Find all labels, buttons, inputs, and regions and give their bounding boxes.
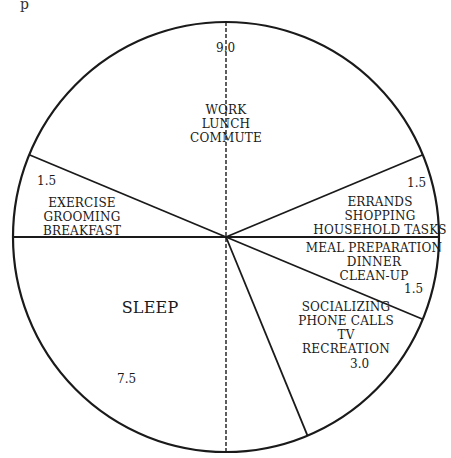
slice-value-socializing: 3.0 [350,357,369,371]
slice-value-sleep: 7.5 [117,372,136,386]
slice-label-socializing: SOCIALIZING PHONE CALLS TV RECREATION [286,300,406,356]
slice-value-exercise: 1.5 [37,174,56,188]
slice-value-errands: 1.5 [407,176,426,190]
slice-label-meal: MEAL PREPARATION DINNER CLEAN-UP [304,241,444,283]
slice-label-sleep: SLEEP [110,299,190,317]
slice-label-work: WORK LUNCH COMMUTE [176,103,276,145]
slice-label-errands: ERRANDS SHOPPING HOUSEHOLD TASKS [310,195,450,237]
slice-value-work: 9.0 [216,41,235,55]
slice-label-exercise: EXERCISE GROOMING BREAKFAST [32,196,132,238]
slice-value-meal: 1.5 [404,282,423,296]
